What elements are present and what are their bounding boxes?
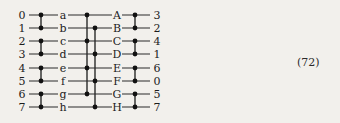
node-bus-even-row-4 — [85, 66, 90, 71]
upper-label-G: G — [113, 88, 122, 101]
output-label-0: 3 — [154, 9, 161, 22]
lower-label-a: a — [60, 9, 67, 22]
node-bus-even-row-6 — [85, 92, 90, 97]
output-label-2: 4 — [154, 35, 161, 48]
node-stage1-row-5 — [39, 79, 44, 84]
upper-label-E: E — [113, 62, 121, 75]
node-bus-odd-row-7 — [93, 105, 98, 110]
node-stage3-row-4 — [133, 66, 138, 71]
lower-label-e: e — [60, 62, 67, 75]
lower-label-d: d — [59, 48, 66, 61]
output-label-4: 6 — [154, 62, 161, 75]
node-stage3-row-5 — [133, 79, 138, 84]
node-bus-odd-row-3 — [93, 52, 98, 57]
upper-label-D: D — [113, 48, 122, 61]
output-label-1: 2 — [154, 22, 161, 35]
output-label-6: 5 — [154, 88, 161, 101]
node-stage1-row-0 — [39, 13, 44, 18]
node-bus-even-row-2 — [85, 39, 90, 44]
node-stage3-row-0 — [133, 13, 138, 18]
lower-label-g: g — [59, 88, 66, 101]
input-label-2: 2 — [19, 35, 26, 48]
figure-root: 01234567abcdefghABCDEFGH32416057 (72) — [0, 0, 340, 123]
upper-label-H: H — [112, 101, 122, 114]
horizontal-wires-layer — [29, 15, 150, 107]
node-stage3-row-6 — [133, 92, 138, 97]
input-label-1: 1 — [19, 22, 26, 35]
node-stage3-row-1 — [133, 26, 138, 31]
upper-label-B: B — [113, 22, 121, 35]
node-stage3-row-2 — [133, 39, 138, 44]
lower-label-h: h — [59, 101, 66, 114]
node-stage1-row-2 — [39, 39, 44, 44]
upper-label-F: F — [113, 75, 121, 88]
equation-number: (72) — [297, 56, 320, 69]
input-label-5: 5 — [19, 75, 26, 88]
node-stage1-row-3 — [39, 52, 44, 57]
input-label-3: 3 — [19, 48, 26, 61]
node-stage1-row-6 — [39, 92, 44, 97]
permutation-network-diagram: 01234567abcdefghABCDEFGH32416057 — [0, 0, 340, 123]
node-stage1-row-4 — [39, 66, 44, 71]
input-label-0: 0 — [19, 9, 26, 22]
node-bus-odd-row-5 — [93, 79, 98, 84]
input-label-6: 6 — [19, 88, 26, 101]
upper-label-A: A — [112, 9, 122, 22]
node-stage1-row-7 — [39, 105, 44, 110]
output-label-7: 7 — [154, 101, 161, 114]
input-label-4: 4 — [19, 62, 26, 75]
node-stage3-row-3 — [133, 52, 138, 57]
node-bus-even-row-0 — [85, 13, 90, 18]
lower-label-b: b — [59, 22, 66, 35]
node-bus-odd-row-1 — [93, 26, 98, 31]
lower-label-c: c — [60, 35, 66, 48]
output-label-5: 0 — [154, 75, 161, 88]
input-label-7: 7 — [19, 101, 26, 114]
node-stage1-row-1 — [39, 26, 44, 31]
labels-layer: 01234567abcdefghABCDEFGH32416057 — [19, 9, 161, 114]
switch-nodes-layer — [39, 13, 138, 110]
upper-label-C: C — [113, 35, 121, 48]
output-label-3: 1 — [154, 48, 161, 61]
node-stage3-row-7 — [133, 105, 138, 110]
